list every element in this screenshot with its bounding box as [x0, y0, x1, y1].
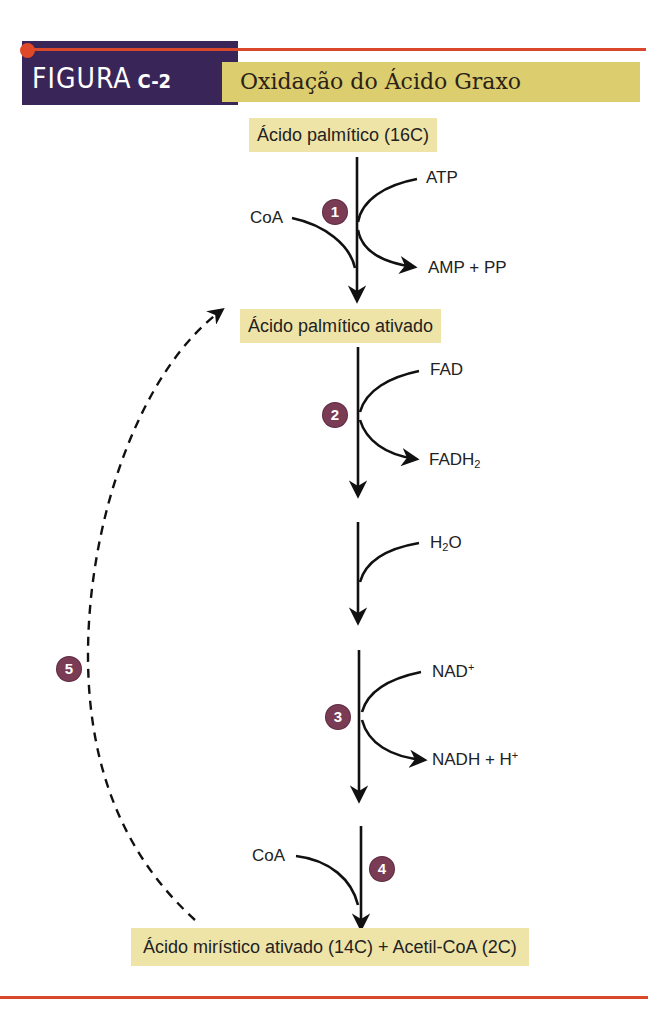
- label-fad: FAD: [430, 360, 463, 380]
- label-nad-plus: NAD+: [432, 662, 474, 682]
- step-badge-1: 1: [323, 200, 347, 224]
- pathway-arrows: [0, 0, 667, 1020]
- amp-pp-out-curve: [358, 230, 414, 267]
- node-activated-palmitic-acid: Ácido palmítico ativado: [240, 309, 441, 343]
- fadh2-out-curve: [360, 420, 416, 459]
- cycle-dashed-arrow: [88, 310, 222, 920]
- nad-base: NAD: [432, 662, 468, 681]
- step-badge-3: 3: [326, 705, 350, 729]
- h2o-o: O: [448, 533, 461, 552]
- node-palmitic-acid: Ácido palmítico (16C): [249, 118, 437, 152]
- label-coa-step4: CoA: [252, 846, 285, 866]
- fad-in-curve: [360, 371, 419, 412]
- step-badge-5: 5: [57, 657, 81, 681]
- label-h2o: H2O: [430, 533, 462, 553]
- nadh-out-curve: [362, 720, 424, 760]
- label-fadh2: FADH2: [429, 450, 480, 470]
- nadh-base: NADH + H: [432, 750, 512, 769]
- nad-in-curve: [362, 672, 421, 712]
- atp-in-curve: [358, 179, 417, 222]
- nadh-superscript: +: [512, 749, 518, 761]
- coa-in-curve-4: [296, 856, 358, 905]
- label-coa-step1: CoA: [250, 208, 283, 228]
- footer-rule: [0, 996, 648, 999]
- node-myristic-acetyl-coa: Ácido mirístico ativado (14C) + Acetil-C…: [131, 928, 529, 966]
- fadh2-base: FADH: [429, 450, 474, 469]
- label-amp-pp: AMP + PP: [428, 258, 507, 278]
- coa-in-curve-1: [292, 218, 355, 268]
- nad-superscript: +: [468, 661, 474, 673]
- h2o-in-curve: [360, 543, 419, 582]
- fadh2-subscript: 2: [474, 458, 480, 470]
- step-badge-2: 2: [323, 403, 347, 427]
- label-nadh-h-plus: NADH + H+: [432, 750, 518, 770]
- h2o-h: H: [430, 533, 442, 552]
- label-atp: ATP: [426, 168, 458, 188]
- step-badge-4: 4: [370, 857, 394, 881]
